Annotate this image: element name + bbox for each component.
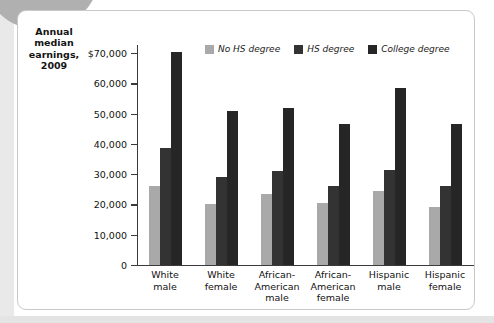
bar-group bbox=[417, 47, 473, 265]
category-label-line: American bbox=[310, 281, 355, 292]
bar bbox=[272, 171, 283, 265]
bar-group bbox=[305, 47, 361, 265]
bar bbox=[384, 170, 395, 265]
bar bbox=[205, 204, 216, 265]
x-axis-line bbox=[137, 265, 474, 266]
x-axis-category-labels: WhitemaleWhitefemaleAfrican-Americanmale… bbox=[137, 269, 473, 304]
category-label-line: White bbox=[151, 269, 179, 280]
bar bbox=[160, 148, 171, 265]
bar bbox=[395, 88, 406, 265]
y-axis-tick bbox=[131, 144, 137, 145]
bar bbox=[373, 191, 384, 265]
category-label-line: female bbox=[429, 281, 462, 292]
bar bbox=[149, 186, 160, 265]
category-label-line: male bbox=[377, 281, 401, 292]
bar bbox=[171, 52, 182, 265]
bar bbox=[339, 124, 350, 265]
plot-area: $70,00060,00050,00040,00030,00020,00010,… bbox=[137, 47, 473, 265]
y-axis-tick-label: 0 bbox=[121, 260, 127, 271]
category-label-line: female bbox=[205, 281, 238, 292]
bar bbox=[317, 203, 328, 265]
bar bbox=[283, 108, 294, 265]
x-axis-category-label: Hispanicmale bbox=[361, 269, 417, 304]
y-axis-tick-label: 60,000 bbox=[94, 78, 127, 89]
category-label-line: male bbox=[153, 281, 177, 292]
x-axis-category-label: Hispanicfemale bbox=[417, 269, 473, 304]
category-label-line: American bbox=[254, 281, 299, 292]
x-axis-category-label: African-Americanfemale bbox=[305, 269, 361, 304]
category-label-line: African- bbox=[315, 269, 352, 280]
bar-group bbox=[137, 47, 193, 265]
bar bbox=[261, 194, 272, 265]
category-label-line: female bbox=[317, 292, 350, 303]
x-axis-category-label: Whitemale bbox=[137, 269, 193, 304]
category-label-line: Hispanic bbox=[425, 269, 465, 280]
bar-groups bbox=[137, 47, 473, 265]
x-axis-category-label: African-Americanmale bbox=[249, 269, 305, 304]
bar bbox=[216, 177, 227, 265]
page-bottom-edge bbox=[0, 316, 494, 323]
y-axis-tick-label: 20,000 bbox=[94, 199, 127, 210]
bar-group bbox=[361, 47, 417, 265]
page-left-edge bbox=[0, 0, 14, 323]
bar-group bbox=[193, 47, 249, 265]
bar-group bbox=[249, 47, 305, 265]
bar bbox=[429, 207, 440, 265]
category-label-line: male bbox=[265, 292, 289, 303]
y-axis-tick bbox=[131, 114, 137, 115]
bar bbox=[440, 186, 451, 265]
category-label-line: Hispanic bbox=[369, 269, 409, 280]
y-axis-tick-label: 40,000 bbox=[94, 138, 127, 149]
x-axis-category-label: Whitefemale bbox=[193, 269, 249, 304]
chart-axis-title: Annual median earnings, 2009 bbox=[18, 26, 90, 72]
y-axis-tick bbox=[131, 83, 137, 84]
category-label-line: White bbox=[207, 269, 235, 280]
y-axis-tick bbox=[131, 235, 137, 236]
y-axis-tick-label: 30,000 bbox=[94, 169, 127, 180]
y-axis-tick-label: 50,000 bbox=[94, 108, 127, 119]
bar bbox=[328, 186, 339, 265]
y-axis-tick-label: 10,000 bbox=[94, 229, 127, 240]
y-axis-tick bbox=[131, 53, 137, 54]
y-axis-tick-label: $70,000 bbox=[88, 48, 127, 59]
category-label-line: African- bbox=[259, 269, 296, 280]
bar bbox=[227, 111, 238, 265]
bar bbox=[451, 124, 462, 265]
y-axis-tick bbox=[131, 265, 137, 266]
y-axis-tick bbox=[131, 174, 137, 175]
y-axis-tick bbox=[131, 204, 137, 205]
